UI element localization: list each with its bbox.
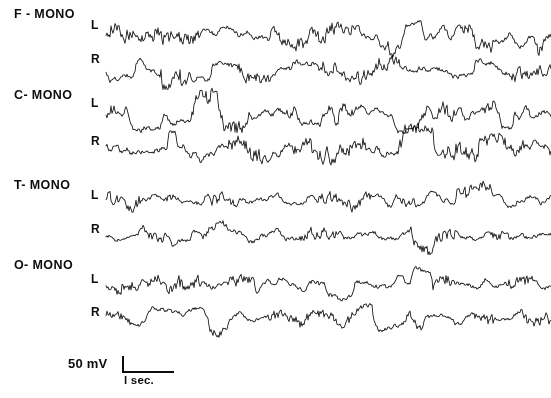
side-label-0-l: L [91, 18, 98, 32]
side-label-2-l: L [91, 96, 98, 110]
side-label-3-r: R [91, 134, 100, 148]
side-label-5-r: R [91, 222, 100, 236]
calibration-amplitude-label: 50 mV [68, 356, 107, 371]
montage-label-2: T- MONO [14, 178, 70, 192]
montage-label-1: C- MONO [14, 88, 72, 102]
side-label-7-r: R [91, 305, 100, 319]
eeg-trace-canvas [0, 0, 551, 398]
montage-label-0: F - MONO [14, 7, 75, 21]
side-label-4-l: L [91, 188, 98, 202]
montage-label-3: O- MONO [14, 258, 73, 272]
calibration-time-label: l sec. [124, 374, 154, 386]
side-label-1-r: R [91, 52, 100, 66]
calibration-horizontal-bar [122, 371, 174, 373]
side-label-6-l: L [91, 272, 98, 286]
eeg-figure: F - MONOC- MONOT- MONOO- MONO LRLRLRLR 5… [0, 0, 551, 398]
